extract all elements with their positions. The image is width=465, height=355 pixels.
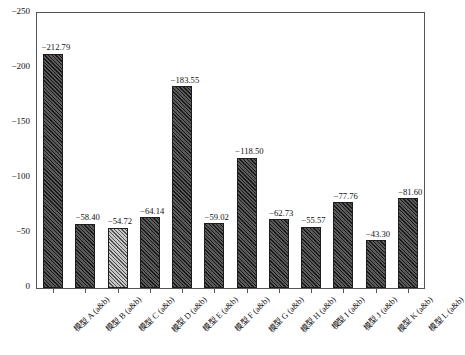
bar-group[interactable]: −58.40 — [75, 13, 95, 288]
bar-group[interactable]: −183.55 — [172, 13, 192, 288]
bar[interactable] — [172, 86, 192, 288]
bar-group[interactable]: −59.02 — [204, 13, 224, 288]
x-axis-tick-mark — [311, 289, 312, 293]
bar-value-label: −43.30 — [366, 229, 390, 239]
bar[interactable] — [366, 240, 386, 288]
bar-value-label: −54.72 — [108, 216, 132, 226]
bar-value-label: −212.79 — [42, 42, 70, 52]
bar-group[interactable]: −81.60 — [398, 13, 418, 288]
bar-group[interactable]: −212.79 — [43, 13, 63, 288]
bar-value-label: −64.14 — [140, 206, 164, 216]
bar-group[interactable]: −118.50 — [237, 13, 257, 288]
bar-group[interactable]: −43.30 — [366, 13, 386, 288]
bar[interactable] — [269, 219, 289, 288]
x-axis-tick-mark — [408, 289, 409, 293]
bar-group[interactable]: −54.72 — [108, 13, 128, 288]
bar-value-label: −77.76 — [334, 191, 358, 201]
x-axis-tick-mark — [214, 289, 215, 293]
bar[interactable] — [108, 228, 128, 288]
bar-group[interactable]: −64.14 — [140, 13, 160, 288]
y-axis-tick-label: −250 — [11, 6, 30, 16]
y-axis-tick-label: 0 — [26, 281, 31, 291]
bar[interactable] — [140, 217, 160, 288]
bar[interactable] — [333, 202, 353, 288]
bar-value-label: −118.50 — [235, 146, 263, 156]
x-axis-tick-mark — [343, 289, 344, 293]
bar-value-label: −62.73 — [269, 208, 293, 218]
y-axis-tick-label: −100 — [11, 171, 30, 181]
y-axis-tick-label: −200 — [11, 61, 30, 71]
bar[interactable] — [301, 227, 321, 288]
bar-value-label: −183.55 — [171, 75, 199, 85]
bar[interactable] — [43, 54, 63, 288]
bar[interactable] — [398, 198, 418, 288]
bar-value-label: −81.60 — [398, 187, 422, 197]
bar-value-label: −58.40 — [76, 212, 100, 222]
x-axis-tick-mark — [376, 289, 377, 293]
y-axis-tick-label: −50 — [16, 226, 30, 236]
bar[interactable] — [75, 224, 95, 288]
x-axis-tick-mark — [53, 289, 54, 293]
bar[interactable] — [204, 223, 224, 288]
bar-group[interactable]: −62.73 — [269, 13, 289, 288]
x-axis-tick-mark — [150, 289, 151, 293]
x-axis-tick-mark — [182, 289, 183, 293]
bar-value-label: −55.57 — [301, 215, 325, 225]
bar-group[interactable]: −55.57 — [301, 13, 321, 288]
bar-group[interactable]: −77.76 — [333, 13, 353, 288]
x-axis-tick-mark — [279, 289, 280, 293]
bar[interactable] — [237, 158, 257, 288]
bar-value-label: −59.02 — [205, 212, 229, 222]
x-axis-tick-mark — [247, 289, 248, 293]
bar-series: −212.79−58.40−54.72−64.14−183.55−59.02−1… — [37, 13, 424, 288]
x-axis-tick-mark — [118, 289, 119, 293]
x-axis-tick-mark — [85, 289, 86, 293]
y-axis-tick-label: −150 — [11, 116, 30, 126]
